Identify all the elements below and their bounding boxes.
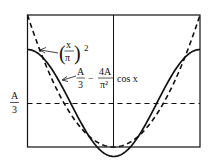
a-third-axis-label: A 3	[10, 90, 19, 115]
paren-right: )	[74, 42, 81, 65]
svg-text:3: 3	[12, 104, 17, 115]
svg-text:4A: 4A	[99, 66, 112, 77]
svg-text:A: A	[11, 90, 19, 101]
fourier-diagram: ( x π ) 2 A 3 − 4A π² cos x A 3	[0, 0, 213, 160]
svg-text:A: A	[77, 66, 85, 77]
frac-den: π	[65, 52, 70, 63]
frac-num: x	[66, 39, 71, 50]
svg-text:π²: π²	[100, 79, 108, 90]
svg-text:−: −	[88, 73, 94, 84]
svg-text:3: 3	[78, 79, 83, 90]
cosine-label: A 3 − 4A π² cos x	[77, 66, 138, 90]
svg-text:cos x: cos x	[117, 73, 138, 84]
exponent: 2	[84, 43, 89, 53]
parabola-label: ( x π ) 2	[59, 39, 89, 65]
